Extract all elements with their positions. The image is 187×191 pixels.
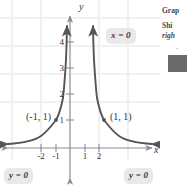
y-tick-label-1: 1	[54, 116, 64, 125]
y-tick-label-3: 3	[54, 64, 64, 73]
graph-figure: y x -2 -1 1 2 1 2 3 4 (-1, 1) (1, 1) x =…	[0, 0, 160, 191]
gridlines	[0, 0, 160, 160]
side-tick-mark: -	[176, 45, 178, 51]
point-label-right: (1, 1)	[110, 112, 132, 122]
x-tick-label-neg1: -1	[49, 152, 63, 161]
x-tick-label-2: 2	[93, 152, 105, 161]
y-tick-label-2: 2	[54, 90, 64, 99]
callout-horizontal-asymptote-left: y = 0	[4, 168, 33, 184]
figure-page: y x -2 -1 1 2 1 2 3 4 (-1, 1) (1, 1) x =…	[0, 0, 187, 191]
y-tick-label-4: 4	[54, 38, 64, 47]
side-text-line-1: Grap	[162, 7, 179, 15]
side-text-line-2: Shi	[162, 22, 172, 30]
point-label-left: (-1, 1)	[26, 112, 51, 122]
coordinate-plot	[0, 0, 160, 191]
callout-horizontal-asymptote-right: y = 0	[124, 168, 153, 184]
x-tick-label-neg2: -2	[34, 152, 48, 161]
x-axis-label: x	[154, 145, 158, 155]
side-text-line-3: righ	[162, 32, 175, 40]
side-text-column: Grap Shi righ -	[160, 0, 187, 191]
y-axis-label: y	[79, 2, 83, 12]
side-image-swatch	[168, 55, 187, 72]
plot-point-right	[102, 118, 106, 122]
callout-vertical-asymptote: x = 0	[106, 28, 136, 44]
x-tick-label-1: 1	[79, 152, 91, 161]
